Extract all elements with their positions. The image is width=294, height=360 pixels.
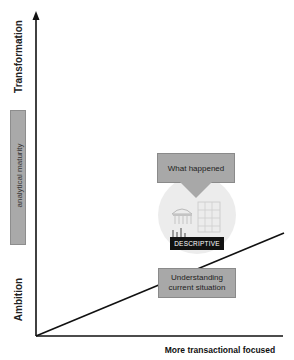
axes: [0, 0, 294, 360]
analytical-maturity-label: analytical maturity: [15, 117, 24, 235]
x-axis-label: More transactional focused: [150, 345, 290, 355]
what-happened-text: What happened: [168, 164, 225, 173]
y-axis-top-label: Transformation: [13, 20, 24, 94]
building-chart-illustration-icon: [168, 198, 226, 238]
what-happened-callout: What happened: [157, 153, 235, 183]
descriptive-badge: DESCRIPTIVE: [170, 237, 224, 250]
y-axis-arrow-icon: [33, 11, 40, 20]
y-axis-bottom-label: Ambition: [13, 275, 24, 325]
understanding-situation-box: Understanding current situation: [158, 268, 236, 298]
descriptive-text: DESCRIPTIVE: [174, 240, 220, 247]
callout-pointer-icon: [180, 182, 212, 198]
understanding-situation-text: Understanding current situation: [164, 273, 230, 293]
analytical-maturity-bar: analytical maturity: [10, 110, 26, 245]
